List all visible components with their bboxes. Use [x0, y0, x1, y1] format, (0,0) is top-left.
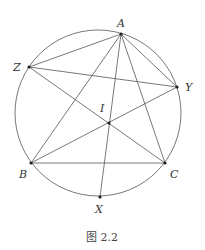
label-c: C: [170, 168, 179, 181]
point-a: [119, 32, 122, 35]
geometry-diagram: AZYIBCX 图 2.2: [0, 0, 205, 250]
point-b: [29, 161, 32, 164]
point-y: [175, 85, 178, 88]
segment-ab: [31, 34, 121, 163]
circumcircle: [15, 30, 181, 196]
segment-ay: [121, 34, 177, 87]
segment-zc: [29, 67, 165, 163]
segment-yb: [31, 87, 177, 163]
label-a: A: [116, 17, 125, 30]
segment-zy: [29, 67, 177, 87]
segment-ax: [100, 34, 121, 197]
point-x: [98, 195, 101, 198]
label-z: Z: [12, 61, 21, 74]
labels: AZYIBCX: [12, 17, 194, 216]
point-i: [107, 121, 110, 124]
point-c: [163, 161, 166, 164]
label-i: I: [99, 102, 105, 115]
label-y: Y: [185, 81, 194, 94]
point-z: [27, 65, 30, 68]
figure-caption: 图 2.2: [86, 231, 118, 244]
label-x: X: [94, 203, 104, 216]
segments: [29, 34, 177, 197]
segment-ac: [121, 34, 165, 163]
label-b: B: [18, 168, 27, 181]
